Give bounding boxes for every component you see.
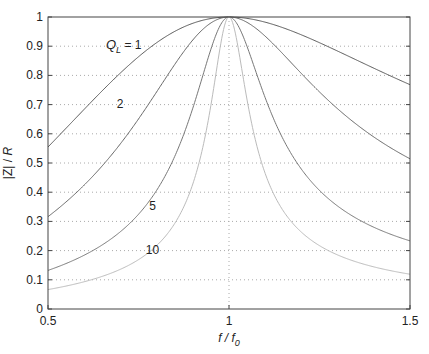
y-tick-label: 0.5 <box>26 156 43 170</box>
curve-q-5 <box>48 17 410 270</box>
y-tick-label: 0.6 <box>26 127 43 141</box>
curve-label-0: QL = 1 <box>106 37 142 55</box>
x-tick-label: 1.5 <box>402 314 419 328</box>
curve-label-2: 5 <box>149 199 156 213</box>
y-tick-label: 0.7 <box>26 98 43 112</box>
x-axis-label: f / f0 <box>218 331 240 348</box>
y-tick-label: 1 <box>36 10 43 24</box>
x-tick-label: 1 <box>226 314 233 328</box>
y-axis-label: |Z| / R <box>1 147 15 180</box>
x-tick-label: 0.5 <box>40 314 57 328</box>
y-tick-label: 0.9 <box>26 39 43 53</box>
y-tick-label: 0.2 <box>26 244 43 258</box>
grid-lines <box>48 17 410 309</box>
curve-label-1: 2 <box>117 97 124 111</box>
y-tick-label: 0.1 <box>26 273 43 287</box>
y-tick-label: 0.4 <box>26 185 43 199</box>
curve-q-1 <box>48 17 410 147</box>
y-tick-label: 0.3 <box>26 214 43 228</box>
ticks: 00.10.20.30.40.50.60.70.80.910.511.5 <box>26 10 418 328</box>
curve-labels: QL = 12510 <box>106 37 159 256</box>
resonance-chart: 00.10.20.30.40.50.60.70.80.910.511.5 QL … <box>0 0 429 354</box>
y-tick-label: 0.8 <box>26 68 43 82</box>
curve-label-3: 10 <box>146 243 160 257</box>
curve-q-2 <box>48 17 410 217</box>
